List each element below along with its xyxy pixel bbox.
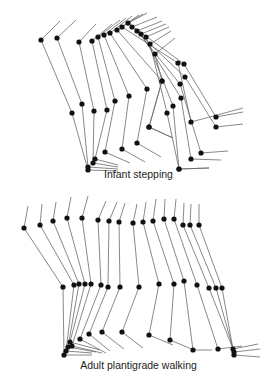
hip-joint [119, 24, 124, 29]
shank-segment [184, 64, 216, 117]
trunk-segment [164, 199, 165, 219]
hip-joint [95, 34, 100, 39]
trunk-segment [155, 38, 175, 54]
thigh-segment [164, 219, 184, 281]
hip-joint [50, 218, 55, 223]
trunk-segment [24, 206, 28, 228]
trunk-segment [150, 31, 171, 44]
foot-segment [201, 151, 228, 153]
thigh-segment [199, 225, 222, 288]
shank-segment [89, 287, 108, 334]
ankle-joint [198, 150, 203, 155]
shank-segment [181, 98, 191, 159]
foot-segment [191, 159, 221, 160]
knee-joint [136, 284, 141, 289]
knee-joint [60, 284, 65, 289]
ankle-joint [146, 124, 151, 129]
trunk-segment [57, 20, 76, 38]
foot-segment [102, 332, 124, 349]
adult-walking-caption: Adult plantigrade walking [0, 359, 277, 371]
knee-joint [171, 281, 176, 286]
knee-joint [159, 78, 164, 83]
knee-joint [105, 284, 110, 289]
knee-joint [178, 95, 183, 100]
shank-segment [216, 288, 234, 352]
thigh-segment [119, 222, 120, 287]
knee-joint [69, 110, 74, 115]
shank-segment [122, 287, 139, 332]
hip-joint [171, 216, 176, 221]
ankle-joint [77, 336, 82, 341]
infant-stepping-figure [38, 13, 243, 173]
shank-segment [173, 106, 179, 169]
shank-segment [222, 288, 234, 355]
adult-walking-figure [21, 196, 260, 358]
knee-joint [164, 110, 169, 115]
shank-segment [82, 104, 88, 167]
hip-joint [187, 222, 192, 227]
ankle-joint [190, 347, 195, 352]
shank-segment [122, 96, 129, 149]
hip-joint [129, 24, 134, 29]
foot-segment [216, 124, 243, 127]
knee-joint [98, 282, 103, 287]
trunk-segment [98, 201, 106, 220]
ankle-joint [102, 149, 107, 154]
knee-joint [112, 98, 117, 103]
knee-joint [194, 282, 199, 287]
shank-segment [72, 284, 91, 346]
ankle-joint [167, 337, 172, 342]
hip-joint [180, 222, 185, 227]
shank-segment [209, 288, 233, 349]
knee-joint [182, 74, 187, 79]
hip-joint [147, 41, 152, 46]
thigh-segment [24, 228, 63, 287]
knee-joint [175, 60, 180, 65]
trunk-segment [119, 203, 125, 222]
ankle-joint [99, 329, 104, 334]
hip-joint [95, 217, 100, 222]
ankle-joint [119, 146, 124, 151]
hip-joint [116, 219, 121, 224]
foot-segment [149, 127, 173, 138]
knee-joint [206, 285, 211, 290]
trunk-segment [82, 196, 88, 218]
hip-joint [64, 215, 69, 220]
trunk-segment [174, 199, 176, 219]
shank-segment [102, 287, 120, 332]
shank-segment [93, 111, 94, 163]
foot-segment [170, 340, 194, 350]
foot-segment [122, 332, 143, 348]
trunk-segment [109, 202, 117, 221]
knee-joint [144, 86, 149, 91]
hip-joint [76, 39, 81, 44]
thigh-segment [98, 37, 115, 101]
shank-segment [180, 84, 201, 153]
hip-joint [150, 218, 155, 223]
trunk-segment [153, 199, 156, 221]
foot-segment [234, 355, 260, 357]
trunk-segment [141, 24, 166, 34]
knee-joint [79, 101, 84, 106]
knee-joint [88, 281, 93, 286]
thigh-segment [110, 33, 147, 89]
infant-stepping-caption: Infant stepping [0, 168, 277, 180]
knee-joint [91, 108, 96, 113]
ankle-joint [231, 352, 236, 357]
hip-joint [125, 20, 130, 25]
trunk-segment [67, 197, 71, 218]
knee-joint [126, 93, 131, 98]
ankle-joint [134, 140, 139, 145]
hip-joint [114, 27, 119, 32]
thigh-segment [82, 218, 91, 284]
shank-segment [170, 284, 174, 340]
knee-joint [219, 285, 224, 290]
thigh-segment [53, 221, 79, 284]
knee-joint [104, 107, 109, 112]
trunk-segment [137, 21, 162, 31]
foot-segment [89, 334, 110, 351]
thigh-segment [41, 40, 72, 113]
trunk-segment [190, 204, 191, 225]
ankle-joint [215, 346, 220, 351]
hip-joint [101, 32, 106, 37]
